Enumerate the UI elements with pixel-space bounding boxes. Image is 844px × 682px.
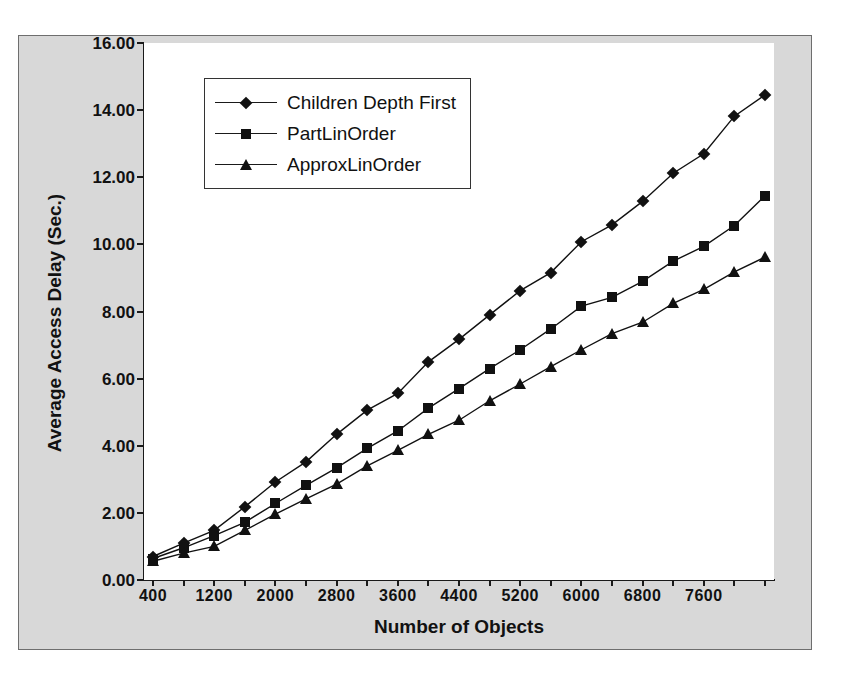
data-point-triangle: [178, 547, 190, 558]
legend-item-label: ApproxLinOrder: [287, 154, 421, 176]
data-point-triangle: [698, 283, 710, 294]
data-point-square: [760, 191, 770, 201]
x-tick-mark: [580, 581, 582, 586]
data-point-square: [423, 403, 433, 413]
data-point-triangle: [575, 344, 587, 355]
data-point-triangle: [545, 360, 557, 371]
legend-item[interactable]: ApproxLinOrder: [215, 149, 456, 180]
data-point-triangle: [759, 251, 771, 262]
data-point-square: [393, 426, 403, 436]
data-point-triangle: [300, 493, 312, 504]
data-point-triangle: [606, 328, 618, 339]
data-point-square: [485, 364, 495, 374]
data-point-square: [209, 531, 219, 541]
legend: Children Depth FirstPartLinOrderApproxLi…: [204, 78, 471, 189]
data-point-square: [301, 480, 311, 490]
y-tick-label: 14.00: [43, 102, 135, 119]
data-point-square: [546, 324, 556, 334]
data-point-triangle: [667, 297, 679, 308]
legend-item-label: PartLinOrder: [287, 123, 396, 145]
data-point-triangle: [392, 444, 404, 455]
data-point-triangle: [422, 428, 434, 439]
y-tick-label: 6.00: [43, 370, 135, 387]
data-point-triangle: [453, 414, 465, 425]
data-point-square: [270, 498, 280, 508]
legend-item-label: Children Depth First: [287, 92, 456, 114]
y-tick-label: 8.00: [43, 303, 135, 320]
data-point-triangle: [637, 316, 649, 327]
x-tick-label: 7600: [664, 588, 744, 604]
y-tick-label: 2.00: [43, 504, 135, 521]
x-tick-mark: [489, 581, 491, 586]
y-tick-label: 10.00: [43, 236, 135, 253]
y-tick-label: 12.00: [43, 169, 135, 186]
x-tick-mark: [733, 581, 735, 586]
x-tick-mark: [244, 581, 246, 586]
data-point-square: [729, 221, 739, 231]
data-point-square: [362, 443, 372, 453]
chart-container: Average Access Delay (Sec.) 0.002.004.00…: [0, 0, 844, 682]
y-tick-label: 4.00: [43, 437, 135, 454]
data-point-square: [699, 241, 709, 251]
data-point-triangle: [269, 508, 281, 519]
data-point-square: [638, 276, 648, 286]
x-tick-mark: [152, 581, 154, 586]
chart-frame: Average Access Delay (Sec.) 0.002.004.00…: [18, 35, 812, 650]
data-point-square: [454, 384, 464, 394]
data-point-square: [515, 345, 525, 355]
legend-marker-diamond-icon: [215, 93, 277, 113]
data-point-square: [332, 463, 342, 473]
data-point-square: [576, 301, 586, 311]
data-point-triangle: [147, 555, 159, 566]
x-tick-mark: [764, 581, 766, 586]
x-tick-mark: [274, 581, 276, 586]
x-tick-mark: [642, 581, 644, 586]
legend-item[interactable]: PartLinOrder: [215, 118, 456, 149]
x-axis-title: Number of Objects: [144, 616, 774, 638]
x-tick-mark: [427, 581, 429, 586]
plot-area: Children Depth FirstPartLinOrderApproxLi…: [144, 43, 774, 580]
x-tick-mark: [183, 581, 185, 586]
legend-marker-square-icon: [215, 124, 277, 144]
legend-item[interactable]: Children Depth First: [215, 87, 456, 118]
data-point-triangle: [728, 266, 740, 277]
data-point-triangle: [208, 540, 220, 551]
data-point-triangle: [484, 395, 496, 406]
x-tick-mark: [519, 581, 521, 586]
y-tick-label: 0.00: [43, 572, 135, 589]
x-tick-mark: [397, 581, 399, 586]
x-tick-mark: [611, 581, 613, 586]
data-point-triangle: [239, 524, 251, 535]
data-point-triangle: [331, 478, 343, 489]
data-point-triangle: [361, 460, 373, 471]
legend-marker-triangle-icon: [215, 155, 277, 175]
x-tick-mark: [366, 581, 368, 586]
x-tick-mark: [336, 581, 338, 586]
data-point-square: [607, 292, 617, 302]
y-tick-label: 16.00: [43, 35, 135, 52]
data-point-square: [668, 256, 678, 266]
x-tick-mark: [672, 581, 674, 586]
x-tick-mark: [550, 581, 552, 586]
data-point-triangle: [514, 378, 526, 389]
x-tick-mark: [703, 581, 705, 586]
x-tick-mark: [213, 581, 215, 586]
x-tick-mark: [458, 581, 460, 586]
x-tick-mark: [305, 581, 307, 586]
